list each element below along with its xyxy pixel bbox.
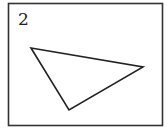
- figure-border: [9, 4, 163, 126]
- figure-number-label: 2: [18, 11, 29, 28]
- triangle-shape: [31, 48, 143, 110]
